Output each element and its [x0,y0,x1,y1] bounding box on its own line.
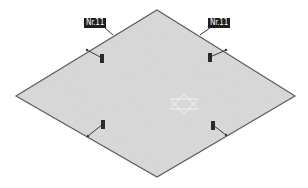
marker-anchor-dot [225,134,227,136]
marker-block [100,54,104,63]
marker-anchor-dot [225,49,227,51]
label-leader-top-right [200,28,210,35]
isometric-plate-diagram [0,0,308,188]
plate-texture [16,10,295,177]
marker-anchor-dot [86,49,88,51]
marker-block [211,121,215,130]
label-leader-top-left [105,28,113,35]
marker-anchor-dot [87,135,89,137]
label-top-left[interactable]: Nr.11 [84,18,106,28]
marker-block [101,120,105,129]
marker-block [208,53,212,62]
label-top-right[interactable]: Nr.11 [208,18,230,28]
